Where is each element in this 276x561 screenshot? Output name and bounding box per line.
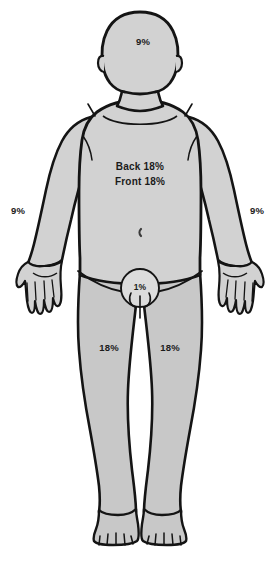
- right-ear-shape: [98, 56, 104, 72]
- left-leg-shape: [142, 272, 202, 518]
- label-left-arm-percent: 9%: [250, 205, 264, 216]
- left-hand-shape: [218, 261, 264, 314]
- label-right-arm-percent: 9%: [11, 205, 25, 216]
- body-figure-svg: 9% 9% 9% Back 18% Front 18% 1% 18% 18%: [0, 0, 276, 561]
- rule-of-nines-diagram: 9% 9% 9% Back 18% Front 18% 1% 18% 18%: [0, 0, 276, 561]
- feet-group: [94, 509, 187, 545]
- label-left-leg-percent: 18%: [160, 342, 180, 353]
- torso-shape: [79, 100, 201, 284]
- right-hand-shape: [17, 261, 63, 314]
- left-ear-shape: [176, 56, 182, 72]
- label-back-percent: Back 18%: [116, 161, 164, 172]
- head-shape: [102, 12, 178, 94]
- right-leg-shape: [78, 272, 138, 518]
- label-front-percent: Front 18%: [115, 176, 165, 187]
- label-head-percent: 9%: [136, 36, 150, 47]
- label-genitals-percent: 1%: [134, 282, 147, 292]
- label-right-leg-percent: 18%: [99, 342, 119, 353]
